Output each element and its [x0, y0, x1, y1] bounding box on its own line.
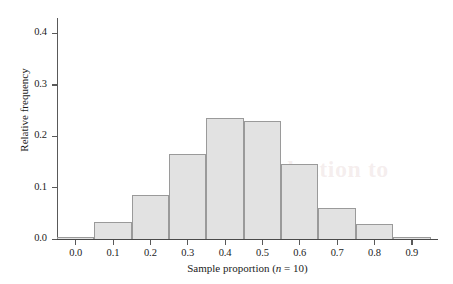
x-tick-label-1: 0.1: [98, 247, 128, 259]
x-tick-label-8: 0.8: [360, 247, 390, 259]
x-tick-label-6: 0.6: [285, 247, 315, 259]
x-tick-label-0: 0.0: [61, 247, 91, 259]
bar-0.3: [169, 154, 206, 239]
bar-0.8: [356, 224, 393, 239]
bar-0.4: [206, 118, 243, 239]
y-axis-title: Relative frequency: [18, 20, 30, 200]
x-tick-label-3: 0.3: [173, 247, 203, 259]
x-tick-7: [337, 240, 338, 245]
x-tick-0: [75, 240, 76, 245]
x-tick-label-2: 0.2: [135, 247, 165, 259]
bar-0.1: [94, 222, 131, 239]
x-tick-3: [187, 240, 188, 245]
bar-0.6: [281, 164, 318, 239]
histogram-figure: Introduction to 0.00.10.20.30.4 0.00.10.…: [0, 0, 453, 284]
bar-0.7: [318, 208, 355, 239]
y-tick-2: [52, 136, 57, 137]
x-tick-label-4: 0.4: [210, 247, 240, 259]
bar-0.9: [393, 237, 430, 239]
y-tick-label-0: 0.0: [21, 233, 47, 243]
x-axis-title-after: = 10): [281, 262, 307, 274]
y-axis-line: [57, 18, 58, 240]
x-tick-5: [262, 240, 263, 245]
bar-0.2: [132, 195, 169, 239]
x-axis-line: [57, 239, 438, 240]
bar-0.0: [57, 237, 94, 239]
x-tick-8: [374, 240, 375, 245]
y-tick-4: [52, 33, 57, 34]
x-tick-9: [411, 240, 412, 245]
x-tick-6: [299, 240, 300, 245]
bar-0.5: [244, 121, 281, 239]
y-tick-3: [52, 84, 57, 85]
x-tick-label-9: 0.9: [397, 247, 427, 259]
x-tick-label-5: 0.5: [247, 247, 277, 259]
x-tick-1: [113, 240, 114, 245]
x-axis-title: Sample proportion (n = 10): [57, 262, 438, 274]
y-tick-1: [52, 187, 57, 188]
x-axis-title-before: Sample proportion (: [187, 262, 276, 274]
x-tick-2: [150, 240, 151, 245]
x-tick-label-7: 0.7: [322, 247, 352, 259]
x-tick-4: [225, 240, 226, 245]
